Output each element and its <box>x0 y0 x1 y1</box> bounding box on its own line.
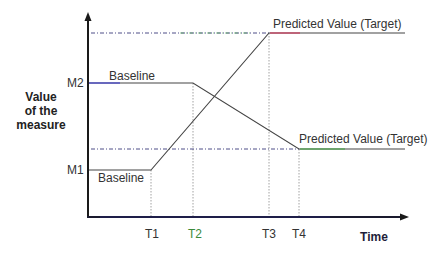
y-axis-title-line1: Value <box>25 90 57 104</box>
tick-t2: T2 <box>188 227 202 241</box>
y-axis-title-line2: of the <box>25 104 58 118</box>
label-baseline-upper: Baseline <box>109 69 155 83</box>
tick-m2: M2 <box>67 76 84 90</box>
diagram-canvas: M2 M1 Value of the measure T1 T2 T3 T4 T… <box>0 0 442 254</box>
tick-t1: T1 <box>145 227 159 241</box>
x-axis-title: Time <box>360 230 388 244</box>
tick-t4: T4 <box>292 227 306 241</box>
label-target-lower: Predicted Value (Target) <box>299 132 428 146</box>
tick-m1: M1 <box>67 163 84 177</box>
tick-t3: T3 <box>262 227 276 241</box>
label-baseline-lower: Baseline <box>98 171 144 185</box>
time-guides <box>151 33 299 217</box>
label-target-upper: Predicted Value (Target) <box>273 17 402 31</box>
x-axis-arrow-icon <box>400 214 409 221</box>
y-axis-title-line3: measure <box>16 118 66 132</box>
y-axis-arrow-icon <box>85 12 92 21</box>
